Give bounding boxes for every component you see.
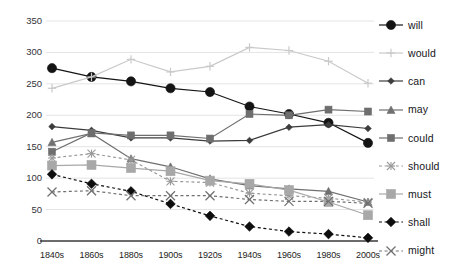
legend-item-may[interactable]: may [378,102,428,118]
marker-diamond [388,78,395,85]
marker-diamond [286,124,293,131]
datapoint-will-1920s [205,87,214,96]
marker-square [387,190,396,199]
datapoint-might-1840s [48,187,57,196]
marker-square [245,179,254,188]
legend-symbol-might [387,246,396,255]
x-tick-1840s: 1840s [30,251,74,260]
marker-circle [126,77,135,86]
legend-item-might[interactable]: might [378,243,434,259]
series-line-could [52,110,368,152]
datapoint-could-1860s [88,129,95,136]
marker-circle [386,20,395,29]
marker-diamond [365,125,372,132]
x-tick-1880s: 1880s [109,251,153,260]
legend-symbol-should [387,162,395,170]
datapoint-would-1980s [324,57,332,65]
datapoint-should-1860s [88,150,96,158]
legend-item-could[interactable]: could [378,130,434,146]
datapoint-can-1960s [286,124,293,131]
y-tick-50: 50 [16,205,42,215]
y-tick-0: 0 [16,236,42,246]
marker-square [87,160,96,169]
marker-square [48,161,57,170]
y-tick-300: 300 [16,47,42,57]
chart-legend: willwouldcanmaycouldshouldmustshallmight [378,0,449,270]
y-tick-250: 250 [16,79,42,89]
legend-label-should: should [408,161,440,172]
datapoint-shall-1920s [205,211,215,221]
marker-square [388,134,395,141]
legend-marker-would [378,46,404,60]
datapoint-can-1940s [246,137,253,144]
datapoint-must-1900s [166,167,175,176]
marker-circle [166,84,175,93]
datapoint-will-1940s [245,102,254,111]
datapoint-should-1900s [167,177,175,185]
y-tick-350: 350 [16,16,42,26]
plot-area: 050100150200250300350 1840s1860s1880s190… [0,0,380,270]
legend-label-could: could [408,133,434,144]
datapoint-must-1920s [206,176,215,185]
datapoint-could-1880s [128,132,135,139]
legend-item-can[interactable]: can [378,73,425,89]
legend-item-shall[interactable]: shall [378,214,430,230]
x-tick-1940s: 1940s [228,251,272,260]
series-would [48,43,372,92]
datapoint-must-1860s [87,160,96,169]
marker-circle [205,87,214,96]
plot-svg [0,0,380,270]
y-tick-100: 100 [16,173,42,183]
legend-symbol-must [387,190,396,199]
x-tick-1920s: 1920s [188,251,232,260]
legend-marker-could [378,131,404,145]
legend-item-would[interactable]: would [378,45,436,61]
legend-marker-may [378,103,404,117]
datapoint-would-1880s [127,55,135,63]
datapoint-could-2000s [365,108,372,115]
legend-item-should[interactable]: should [378,158,440,174]
legend-label-would: would [408,48,436,59]
marker-square [206,176,215,185]
legend-marker-might [378,244,404,258]
marker-diamond [205,211,215,221]
datapoint-must-1960s [285,186,294,195]
x-tick-1900s: 1900s [149,251,193,260]
legend-item-will[interactable]: will [378,17,423,33]
marker-diamond [49,123,56,130]
marker-square [88,129,95,136]
series-line-must [52,165,368,215]
x-tick-1860s: 1860s [70,251,114,260]
marker-square [364,211,373,220]
legend-swatch-will-icon [378,18,404,32]
datapoint-shall-1940s [245,222,255,232]
marker-square [285,186,294,195]
legend-swatch-might-icon [378,244,404,258]
legend-item-must[interactable]: must [378,186,431,202]
marker-circle [47,64,56,73]
datapoint-will-1900s [166,84,175,93]
datapoint-must-1880s [127,164,136,173]
legend-marker-shall [378,215,404,229]
datapoint-can-1840s [49,123,56,130]
legend-symbol-shall [386,218,396,228]
x-tick-1980s: 1980s [307,251,351,260]
datapoint-would-1900s [166,68,174,76]
series-could [49,106,372,155]
x-tick-1960s: 1960s [267,251,311,260]
legend-marker-can [378,74,404,88]
marker-square [128,132,135,139]
modal-verbs-line-chart: 050100150200250300350 1840s1860s1880s190… [0,0,449,270]
datapoint-shall-1880s [126,187,136,197]
datapoint-would-1940s [245,43,253,51]
marker-circle [363,138,372,147]
datapoint-will-1880s [126,77,135,86]
legend-swatch-should-icon [378,159,404,173]
marker-diamond [284,227,294,237]
marker-square [166,167,175,176]
legend-label-will: will [408,20,423,31]
datapoint-must-1940s [245,179,254,188]
datapoint-shall-1900s [166,199,176,209]
legend-swatch-shall-icon [378,215,404,229]
legend-swatch-could-icon [378,131,404,145]
